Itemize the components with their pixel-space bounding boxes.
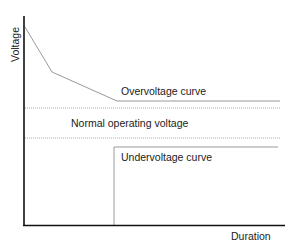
normal-voltage-label: Normal operating voltage xyxy=(71,117,188,129)
y-axis-label: Voltage xyxy=(9,27,21,62)
x-axis-label: Duration xyxy=(231,230,271,242)
voltage-tolerance-diagram: Voltage Duration Overvoltage curve Norma… xyxy=(0,0,298,248)
undervoltage-label: Undervoltage curve xyxy=(121,151,212,163)
overvoltage-label: Overvoltage curve xyxy=(121,85,206,97)
